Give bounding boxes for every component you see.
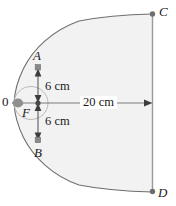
marker-point-b xyxy=(35,137,40,142)
marker-focus-point xyxy=(35,100,40,105)
label-point-d: D xyxy=(158,186,167,199)
marker-point-d xyxy=(150,189,155,194)
marker-point-c xyxy=(150,11,155,16)
label-point-b: B xyxy=(34,146,42,159)
label-point-c: C xyxy=(159,5,168,18)
label-dimension-upper: 6 cm xyxy=(45,80,70,93)
label-focus: F xyxy=(22,106,30,119)
marker-point-a xyxy=(35,65,40,70)
label-dimension-axis: 20 cm xyxy=(80,96,117,109)
label-point-a: A xyxy=(33,49,41,62)
label-dimension-lower: 6 cm xyxy=(45,115,70,128)
label-origin: 0 xyxy=(2,95,9,108)
parabola-diagram: 0 F A B C D 6 cm 6 cm 20 cm xyxy=(0,0,176,206)
